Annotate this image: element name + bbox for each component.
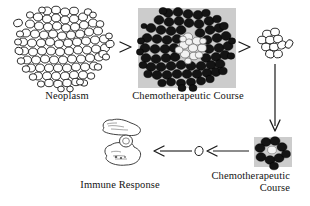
neoplasm-cluster <box>14 6 119 86</box>
caption-chemo-course-bottom-line2: Course <box>188 182 290 194</box>
treated-cluster-small-cells <box>254 137 292 167</box>
caption-chemo-course-top: Chemotherapeutic Course <box>132 90 244 102</box>
treated-cluster-small <box>254 137 292 167</box>
arrow-neoplasm-to-treated <box>118 40 138 54</box>
caption-neoplasm: Neoplasm <box>32 90 102 102</box>
arrow-treated-to-residual <box>237 40 257 54</box>
neoplasm-cluster-cells <box>14 6 119 86</box>
single-cell-outline <box>193 145 205 157</box>
arrow-residual-to-treated-small <box>268 64 282 134</box>
residual-cluster-small <box>257 28 295 62</box>
arrow-treated-small-to-single-cell <box>205 144 249 158</box>
treated-cluster-large-cells <box>138 8 236 88</box>
caption-chemo-course-bottom-line1: Chemotherapeutic <box>188 170 290 182</box>
caption-immune-response: Immune Response <box>60 179 180 191</box>
arrow-single-cell-to-immune <box>152 144 192 158</box>
figure-canvas: Neoplasm <box>0 0 310 206</box>
single-residual-cell <box>193 145 205 157</box>
immune-cells <box>95 116 153 174</box>
treated-cluster-large <box>138 8 236 88</box>
residual-cluster-small-cells <box>257 28 295 62</box>
immune-cells-shapes <box>95 116 153 174</box>
